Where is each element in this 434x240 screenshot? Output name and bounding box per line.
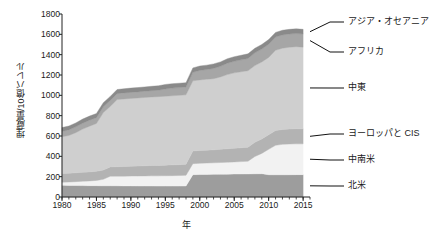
x-tick-label: 2010	[259, 200, 278, 210]
x-tick-label: 1995	[156, 200, 175, 210]
callout-label-asia-oceania: アジア・オセアニア	[348, 16, 429, 27]
x-tick-label: 2005	[225, 200, 244, 210]
x-tick-label: 2000	[190, 200, 209, 210]
x-tick-label: 1990	[121, 200, 140, 210]
callout-label-north-america: 北米	[348, 180, 366, 191]
x-tick-label: 1980	[53, 200, 72, 210]
x-tick-label: 2015	[294, 200, 313, 210]
callout-label-central-south-america: 中南米	[348, 154, 375, 165]
chart-figure: 埋蔵量/10億バレル 02004006008001000120014001600…	[0, 0, 434, 240]
callout-label-middle-east: 中東	[348, 82, 366, 93]
x-axis-title: 年	[62, 218, 310, 231]
callout-label-europe-cis: ヨーロッパと CIS	[348, 128, 420, 139]
x-tick-label: 1985	[87, 200, 106, 210]
callout-label-africa: アフリカ	[348, 46, 384, 57]
